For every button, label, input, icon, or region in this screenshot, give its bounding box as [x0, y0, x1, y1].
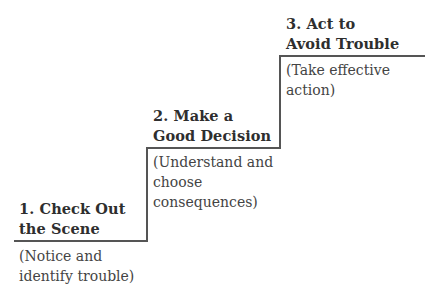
step-2-desc-line1: (Understand and — [153, 152, 273, 172]
step-2-description: (Understand and choose consequences) — [153, 152, 273, 212]
step-1-description: (Notice and identify trouble) — [19, 246, 134, 286]
step-1-title-line2: the Scene — [19, 219, 126, 239]
step-1-desc-line1: (Notice and — [19, 246, 134, 266]
step-3-description: (Take effective action) — [286, 60, 390, 100]
step-2-tread — [146, 147, 281, 149]
step-3-title-line1: 3. Act to — [286, 14, 399, 34]
step-2-title-line2: Good Decision — [153, 126, 271, 146]
step-2-title-line1: 2. Make a — [153, 106, 271, 126]
step-1-title: 1. Check Out the Scene — [19, 199, 126, 239]
step-1-title-line1: 1. Check Out — [19, 199, 126, 219]
step-3-desc-line1: (Take effective — [286, 60, 390, 80]
step-2-desc-line2: choose — [153, 172, 273, 192]
step-3-title: 3. Act to Avoid Trouble — [286, 14, 399, 54]
step-1-riser — [146, 148, 148, 242]
step-2-desc-line3: consequences) — [153, 192, 273, 212]
step-3-title-line2: Avoid Trouble — [286, 34, 399, 54]
step-1-desc-line2: identify trouble) — [19, 266, 134, 286]
step-2-title: 2. Make a Good Decision — [153, 106, 271, 146]
step-3-tread — [279, 55, 425, 57]
step-1-tread — [14, 240, 148, 242]
step-2-riser — [279, 55, 281, 149]
step-3-desc-line2: action) — [286, 80, 390, 100]
